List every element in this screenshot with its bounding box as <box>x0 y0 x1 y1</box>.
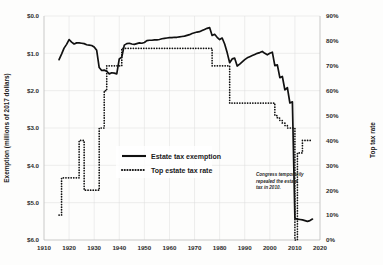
y2-tick-80pct: 80% <box>326 37 339 44</box>
x-axis-ticks: 1910192019301940195019601970198019902000… <box>37 244 327 251</box>
grid-lines <box>44 16 320 240</box>
y2-axis-ticks: 90%80%70%60%50%40%30%20%10%0% <box>326 12 339 243</box>
x-tick-2020: 2020 <box>313 244 327 251</box>
annotation-line-1: Congress temporarily <box>256 172 304 177</box>
series-estate-tax-exemption <box>59 28 312 222</box>
x-tick-1930: 1930 <box>87 244 101 251</box>
x-tick-1920: 1920 <box>62 244 76 251</box>
y2-axis-title: Top tax rate <box>369 122 377 158</box>
annotation-line-3: tax in 2010. <box>256 185 281 190</box>
annotation-line-2: repealed the estate <box>256 179 298 184</box>
y-tick-10: $1.0 <box>27 50 40 57</box>
x-tick-1940: 1940 <box>112 244 126 251</box>
x-tick-1950: 1950 <box>137 244 151 251</box>
y2-tick-90pct: 90% <box>326 12 339 19</box>
x-tick-1910: 1910 <box>37 244 51 251</box>
series-top-estate-tax-rate <box>59 48 312 240</box>
y2-tick-40pct: 40% <box>326 137 339 144</box>
y2-tick-30pct: 30% <box>326 162 339 169</box>
x-tick-1990: 1990 <box>238 244 252 251</box>
y2-tick-70pct: 70% <box>326 62 339 69</box>
y2-tick-20pct: 20% <box>326 187 339 194</box>
x-tick-2000: 2000 <box>263 244 277 251</box>
legend-label-exemption: Estate tax exemption <box>151 153 221 161</box>
chart-container: 1910192019301940195019601970198019902000… <box>0 0 383 265</box>
y2-tick-10pct: 10% <box>326 211 339 218</box>
legend-label-rate: Top estate tax rate <box>151 167 212 175</box>
y2-tick-50pct: 50% <box>326 112 339 119</box>
y2-tick-0pct: 0% <box>326 236 335 243</box>
y-tick-20: $2.0 <box>27 87 40 94</box>
estate-tax-chart: 1910192019301940195019601970198019902000… <box>0 0 383 265</box>
x-tick-1970: 1970 <box>188 244 202 251</box>
y-tick-00: $0.0 <box>27 12 40 19</box>
x-tick-1960: 1960 <box>163 244 177 251</box>
y-axis-ticks: $0.0$1.0$2.0$3.0$4.0$5.0$6.0 <box>27 12 40 243</box>
y-tick-50: $5.0 <box>27 199 40 206</box>
y-tick-30: $3.0 <box>27 124 40 131</box>
x-tick-2010: 2010 <box>288 244 302 251</box>
y2-tick-60pct: 60% <box>326 87 339 94</box>
y-tick-40: $4.0 <box>27 162 40 169</box>
chart-legend: Estate tax exemption Top estate tax rate <box>116 146 221 178</box>
data-series <box>59 28 312 240</box>
y-tick-60: $6.0 <box>27 236 40 243</box>
x-tick-1980: 1980 <box>213 244 227 251</box>
y-axis-title: Exemption (millions of 2017 dollars) <box>3 73 11 182</box>
